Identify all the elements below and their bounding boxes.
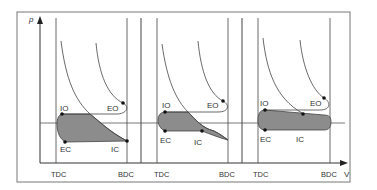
ec-point xyxy=(263,128,267,132)
io-point xyxy=(163,110,167,114)
ic-point xyxy=(301,112,305,116)
outer-frame xyxy=(17,12,350,182)
ec-label: EC xyxy=(160,136,171,145)
tdc-label: TDC xyxy=(253,170,269,179)
ec-point xyxy=(163,129,167,133)
y-axis-label: p xyxy=(28,15,34,24)
expansion-curve xyxy=(263,38,302,113)
gas-exchange-loop xyxy=(258,110,331,130)
x-axis-label: V xyxy=(344,170,350,179)
eo-point xyxy=(121,101,125,105)
bdc-label: BDC xyxy=(118,170,134,179)
eo-point xyxy=(322,96,326,100)
eo-label: EO xyxy=(310,99,322,108)
panel-2: IO EO EC IC TDC BDC xyxy=(154,18,235,179)
io-point xyxy=(263,108,267,112)
gas-exchange-loop xyxy=(57,114,127,142)
ic-point xyxy=(200,129,204,133)
tdc-label: TDC xyxy=(51,170,67,179)
ec-label: EC xyxy=(260,135,271,144)
panel-1: IO EO EC IC TDC BDC xyxy=(51,18,134,179)
bdc-label: BDC xyxy=(321,170,337,179)
ic-label: IC xyxy=(296,135,304,144)
ic-label: IC xyxy=(194,138,202,147)
y-axis-arrow-icon xyxy=(37,16,43,24)
eo-label: EO xyxy=(207,101,219,110)
io-label: IO xyxy=(162,101,170,110)
pv-diagram: p V IO EO EC IC TDC BDC xyxy=(0,0,377,190)
panel-3: IO EO EC IC TDC BDC xyxy=(253,18,337,179)
eo-label: EO xyxy=(107,104,119,113)
x-axis-arrow-icon xyxy=(340,160,348,166)
io-label: IO xyxy=(60,104,68,113)
ic-point xyxy=(125,139,129,143)
tdc-label: TDC xyxy=(154,170,170,179)
bdc-label: BDC xyxy=(219,170,235,179)
io-label: IO xyxy=(260,99,268,108)
eo-point xyxy=(221,99,225,103)
ec-point xyxy=(63,140,67,144)
ec-label: EC xyxy=(60,145,71,154)
ic-label: IC xyxy=(111,145,119,154)
